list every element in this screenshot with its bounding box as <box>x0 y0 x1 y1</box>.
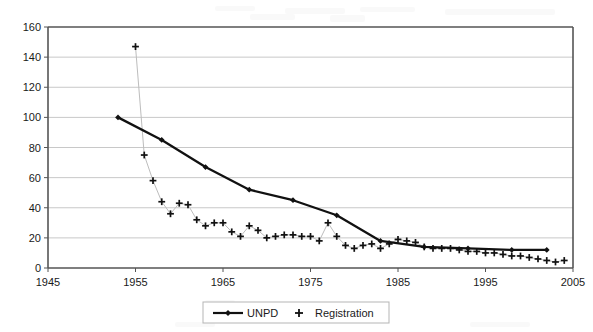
y-tick-label-60: 60 <box>29 172 41 184</box>
registration-data-point <box>491 250 498 257</box>
gridlines <box>48 57 573 238</box>
registration-data-point <box>185 201 192 208</box>
x-tick-label-1965: 1965 <box>211 276 235 288</box>
registration-data-point <box>158 198 165 205</box>
registration-data-point <box>307 233 314 240</box>
registration-data-point <box>552 259 559 266</box>
y-tick-label-100: 100 <box>23 111 41 123</box>
series-unpd <box>115 114 550 252</box>
registration-data-point <box>281 231 288 238</box>
registration-data-point <box>141 152 148 159</box>
registration-data-point <box>298 233 305 240</box>
registration-connector-line <box>136 47 565 262</box>
x-tick-label-1945: 1945 <box>36 276 60 288</box>
registration-data-point <box>377 245 384 252</box>
series-registration <box>132 43 568 265</box>
unpd-data-point <box>544 247 550 253</box>
unpd-data-point <box>290 197 296 203</box>
registration-data-point <box>202 222 209 229</box>
x-tick-label-1995: 1995 <box>473 276 497 288</box>
y-tick-label-40: 40 <box>29 202 41 214</box>
registration-data-point <box>535 256 542 263</box>
registration-data-point <box>543 257 550 264</box>
registration-data-point <box>508 253 515 260</box>
registration-data-point <box>193 216 200 223</box>
registration-data-point <box>526 254 533 261</box>
x-tick-label-2005: 2005 <box>561 276 585 288</box>
y-tick-label-20: 20 <box>29 232 41 244</box>
y-tick-label-140: 140 <box>23 51 41 63</box>
registration-data-point <box>325 219 332 226</box>
y-axis-tick-labels: 020406080100120140160 <box>23 21 48 274</box>
registration-data-point <box>360 242 367 249</box>
registration-data-point <box>395 236 402 243</box>
registration-data-point <box>150 177 157 184</box>
legend-label-registration: Registration <box>315 307 374 319</box>
chart-container: 020406080100120140160 194519551965197519… <box>0 0 593 332</box>
registration-data-point <box>316 237 323 244</box>
registration-data-point <box>500 251 507 258</box>
registration-data-point <box>132 43 139 50</box>
registration-data-point <box>561 257 568 264</box>
chart-svg: 020406080100120140160 194519551965197519… <box>0 0 593 332</box>
y-tick-label-160: 160 <box>23 21 41 33</box>
y-tick-label-80: 80 <box>29 142 41 154</box>
registration-data-point <box>290 231 297 238</box>
x-tick-label-1985: 1985 <box>386 276 410 288</box>
x-tick-label-1955: 1955 <box>123 276 147 288</box>
unpd-data-point <box>421 244 427 250</box>
registration-data-point <box>517 253 524 260</box>
x-tick-label-1975: 1975 <box>298 276 322 288</box>
registration-data-point <box>482 250 489 257</box>
y-tick-label-120: 120 <box>23 81 41 93</box>
legend-label-unpd: UNPD <box>247 307 278 319</box>
plot-area: 020406080100120140160 194519551965197519… <box>0 0 593 332</box>
chart-legend: UNPDRegistration <box>203 302 389 323</box>
unpd-data-point <box>465 246 471 252</box>
registration-data-point <box>272 233 279 240</box>
x-axis-tick-labels: 1945195519651975198519952005 <box>36 268 585 288</box>
registration-data-point <box>351 245 358 252</box>
y-tick-label-0: 0 <box>35 262 41 274</box>
registration-data-point <box>211 219 218 226</box>
registration-data-point <box>368 241 375 248</box>
unpd-data-point <box>509 247 515 253</box>
